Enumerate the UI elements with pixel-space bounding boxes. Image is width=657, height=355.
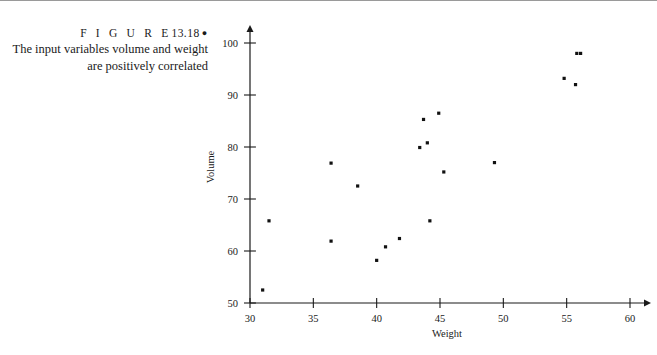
y-axis-tick-label: 60: [228, 246, 239, 257]
data-point-marker: [575, 52, 578, 55]
data-point-marker: [563, 77, 566, 80]
y-axis-tick-label: 90: [228, 90, 239, 101]
data-point-marker: [493, 161, 496, 164]
y-axis-title: Volume: [205, 150, 216, 183]
plot-axes: [250, 31, 645, 303]
x-axis-tick-label: 40: [371, 313, 382, 324]
data-point-marker: [375, 259, 378, 262]
data-point-marker: [428, 219, 431, 222]
y-axis-tick-label: 100: [222, 38, 238, 49]
x-axis-tick-label: 45: [435, 313, 446, 324]
data-point-marker: [422, 118, 425, 121]
x-axis-tick-label: 60: [625, 313, 636, 324]
data-point-marker: [579, 52, 582, 55]
data-point-marker: [442, 170, 445, 173]
data-points: [261, 52, 582, 292]
scatter-plot: 30354045505560 5060708090100 Weight Volu…: [0, 0, 657, 355]
data-point-marker: [574, 83, 577, 86]
data-point-marker: [329, 162, 332, 165]
y-axis-tick-label: 70: [228, 194, 239, 205]
data-point-marker: [356, 184, 359, 187]
data-point-marker: [329, 240, 332, 243]
x-axis-title: Weight: [432, 328, 462, 339]
x-axis-tick-label: 30: [245, 313, 256, 324]
data-point-marker: [398, 237, 401, 240]
data-point-marker: [426, 141, 429, 144]
data-point-marker: [437, 112, 440, 115]
data-point-marker: [418, 146, 421, 149]
x-axis-tick-label: 50: [498, 313, 509, 324]
data-point-marker: [384, 245, 387, 248]
y-axis-tick-label: 50: [228, 298, 239, 309]
data-point-marker: [267, 219, 270, 222]
x-axis-ticks: 30354045505560: [245, 298, 636, 324]
data-point-marker: [261, 288, 264, 291]
y-axis-tick-label: 80: [228, 142, 239, 153]
x-axis-tick-label: 35: [308, 313, 319, 324]
y-axis-ticks: 5060708090100: [222, 38, 256, 309]
x-axis-tick-label: 55: [561, 313, 572, 324]
